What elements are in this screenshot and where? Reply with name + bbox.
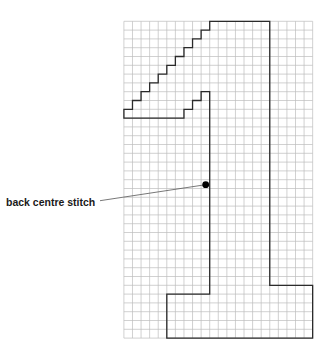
back-centre-stitch-label: back centre stitch	[6, 197, 95, 208]
knitting-chart	[0, 0, 333, 355]
leader-line	[100, 185, 206, 201]
back-centre-stitch-dot-icon	[202, 181, 209, 188]
chart-grid	[124, 21, 313, 338]
